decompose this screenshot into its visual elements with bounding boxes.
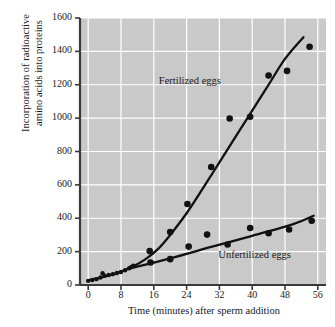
data-point [98, 275, 102, 279]
data-point [265, 72, 272, 79]
series-annotation-fertilized: Fertilized eggs [159, 75, 221, 86]
y-axis-tick: 1000 [38, 111, 72, 122]
data-point [226, 115, 233, 122]
y-axis-tick: 1400 [38, 44, 72, 55]
y-axis-tick: 1200 [38, 78, 72, 89]
data-point [247, 225, 254, 232]
data-point [167, 256, 174, 263]
data-point [102, 274, 106, 278]
data-point [111, 272, 115, 276]
y-axis-tick: 800 [38, 145, 72, 156]
data-point [86, 279, 90, 283]
x-axis-label: Time (minutes) after sperm addition [80, 305, 328, 316]
data-point [306, 43, 313, 50]
data-point [115, 271, 119, 275]
x-axis-tick: 32 [206, 289, 232, 300]
data-point [286, 226, 293, 233]
data-point [265, 230, 272, 237]
y-axis-tick: 600 [38, 178, 72, 189]
x-axis-tick: 24 [174, 289, 200, 300]
x-axis-tick: 0 [75, 289, 101, 300]
data-point [185, 243, 192, 250]
data-point [123, 268, 127, 272]
x-axis-tick: 40 [239, 289, 265, 300]
y-axis-tick: 0 [38, 278, 72, 289]
data-point [308, 217, 315, 224]
x-axis-tick: 8 [108, 289, 134, 300]
data-point [90, 278, 94, 282]
data-point [94, 277, 98, 281]
data-point [107, 273, 111, 277]
data-point [247, 113, 254, 120]
data-point [284, 68, 291, 75]
y-axis-tick: 1600 [38, 11, 72, 22]
data-point [167, 229, 174, 236]
data-point [146, 248, 153, 255]
data-point [224, 241, 231, 248]
x-axis-tick: 48 [272, 289, 298, 300]
data-point [204, 231, 211, 238]
data-point [208, 164, 215, 171]
x-axis-tick: 56 [305, 289, 331, 300]
data-point [184, 201, 191, 208]
chart-figure: Incorporation of radioactive amino acids… [0, 0, 335, 327]
y-axis-tick: 200 [38, 245, 72, 256]
series-annotation-unfertilized: Unfertilized eggs [218, 249, 291, 260]
y-axis-label-line1: Incorporation of radioactive [19, 0, 32, 177]
data-point [119, 270, 123, 274]
y-axis-tick: 400 [38, 211, 72, 222]
x-axis-tick: 16 [141, 289, 167, 300]
